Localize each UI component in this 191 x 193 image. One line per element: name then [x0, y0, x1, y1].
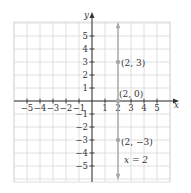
point-label-2-3: (2, 3): [121, 58, 145, 68]
y-tick-label: 4: [83, 44, 88, 54]
y-tick-label: −3: [75, 135, 88, 145]
point-label-2-0: (2, 0): [119, 89, 143, 99]
x-tick-label: 1: [102, 103, 107, 113]
y-tick-label: −5: [75, 161, 88, 171]
equation-label: x = 2: [124, 155, 148, 165]
y-axis-arrow-icon: [90, 12, 95, 18]
x-tick-label: −2: [60, 103, 73, 113]
y-tick-label: 3: [83, 57, 88, 67]
y-tick-label: 1: [83, 83, 88, 93]
y-tick-label: −1: [75, 109, 88, 119]
coordinate-plane: −5−4−3−2−112345−5−4−3−2−112345 y x (2, 3…: [0, 0, 191, 193]
y-axis-label: y: [83, 10, 89, 20]
y-tick-label: 2: [83, 70, 88, 80]
data-point: [116, 99, 120, 103]
data-point: [116, 138, 120, 142]
vertical-line-x-equals-2: [116, 22, 121, 181]
y-tick-label: −4: [75, 148, 88, 158]
y-tick-label: 5: [83, 31, 88, 41]
x-tick-label: −3: [47, 103, 60, 113]
data-point: [116, 60, 120, 64]
x-axis-label: x: [174, 100, 179, 110]
axes: [14, 12, 179, 182]
x-tick-label: 5: [154, 103, 159, 113]
y-tick-label: −2: [75, 122, 88, 132]
point-label-2-neg3: (2, −3): [121, 137, 153, 147]
x-tick-label: 3: [128, 103, 133, 113]
x-tick-label: −5: [21, 103, 34, 113]
x-tick-label: 4: [141, 103, 146, 113]
x-tick-label: −4: [34, 103, 47, 113]
